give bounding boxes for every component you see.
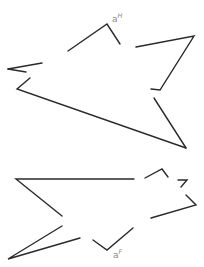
outline-segment — [178, 180, 187, 187]
outline-segment — [136, 36, 194, 90]
diagram-svg: aH aF — [0, 0, 204, 267]
outline-segment — [8, 63, 42, 69]
outline-segment — [154, 98, 186, 148]
vertex-label-a-f: aF — [113, 248, 123, 260]
outline-segment — [8, 226, 80, 259]
outline-segment — [68, 24, 120, 51]
vertex-label-a-h: aH — [112, 12, 123, 24]
outline-segment — [93, 228, 133, 250]
outline-segment — [8, 69, 26, 72]
diagram-canvas: aH aF — [0, 0, 204, 267]
outline-segment — [151, 195, 196, 218]
outline-segment — [16, 179, 134, 216]
figure-h — [8, 24, 194, 148]
outline-segment — [145, 169, 168, 178]
figure-f — [8, 169, 196, 259]
